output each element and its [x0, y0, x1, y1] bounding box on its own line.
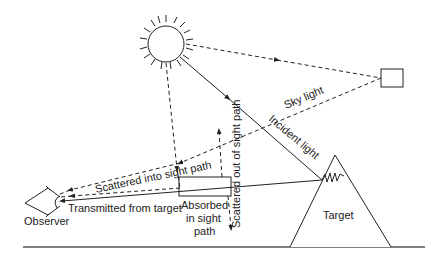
observer-eye-icon	[25, 186, 60, 217]
transmitted-label: Transmitted from target	[68, 202, 182, 214]
scattered-out-label: Scattered out of sight path	[230, 100, 242, 228]
absorbed-label-line2: in sight	[186, 212, 221, 224]
sky-scatterer-box	[381, 69, 403, 87]
incident-light-label: Incident light	[267, 112, 322, 161]
absorbed-label-line3: path	[194, 225, 215, 237]
absorbed-label-line1: Absorbed	[181, 199, 228, 211]
sky-light-ray-tail	[58, 190, 70, 195]
light-path-diagram: Sky light Incident light Scattered out o…	[0, 0, 425, 258]
sight-path-volume-box	[179, 177, 231, 196]
sun-to-sky-ray	[186, 44, 277, 60]
scattered-into-ray	[72, 188, 180, 196]
target-mountain	[290, 155, 391, 247]
scattered-into-ray-tail	[60, 196, 72, 197]
sun-to-sky-ray-tail	[277, 60, 381, 78]
scattered-out-up-arrow	[219, 131, 222, 177]
sun-to-sightpath-ray	[166, 63, 177, 169]
sky-light-label: Sky light	[282, 84, 325, 111]
incident-light-ray-tail	[228, 98, 322, 180]
observer-label: Observer	[24, 215, 70, 227]
incident-light-ray	[180, 57, 228, 98]
target-label: Target	[323, 209, 354, 221]
